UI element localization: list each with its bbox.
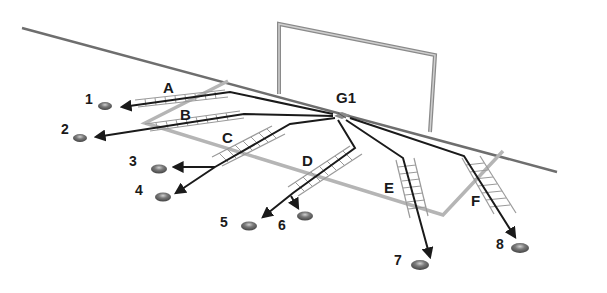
path-d-6: [291, 196, 298, 208]
ladder-label-d: D: [302, 153, 313, 168]
cone-label-5: 5: [220, 215, 228, 229]
field-drawing: [0, 0, 607, 293]
cone-label-4: 4: [135, 183, 143, 197]
ladder-label-f: F: [471, 193, 480, 208]
cone-7: [411, 260, 429, 270]
cone-label-8: 8: [496, 237, 504, 251]
cone-6: [297, 212, 313, 221]
penalty-box: [145, 81, 503, 215]
cone-5: [241, 222, 257, 231]
cone-2: [73, 134, 87, 142]
goal-line: [22, 28, 557, 172]
cone-4: [155, 193, 171, 202]
ladder-label-a: A: [163, 80, 174, 95]
cone-3: [151, 165, 167, 174]
cone-label-6: 6: [278, 218, 286, 232]
ladder-label-b: B: [180, 107, 191, 122]
cone-1: [98, 102, 112, 110]
start-label-g1: G1: [336, 90, 356, 105]
drill-diagram: G1 A B C D E F 1 2 3 4 5 6 7 8: [0, 0, 607, 293]
cone-label-7: 7: [394, 253, 402, 267]
path-b-2: [96, 114, 333, 137]
ladder-label-c: C: [222, 130, 233, 145]
cone-label-3: 3: [129, 154, 137, 168]
cone-label-1: 1: [85, 92, 93, 106]
ladder-label-e: E: [384, 180, 394, 195]
cone-8: [511, 243, 529, 253]
cone-label-2: 2: [61, 122, 69, 136]
